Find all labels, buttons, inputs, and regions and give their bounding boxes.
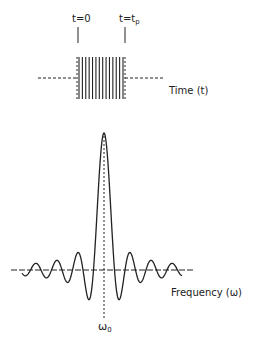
start-marker-label: t=0: [72, 13, 91, 24]
time-axis-label: Time (t): [168, 85, 208, 96]
frequency-axis-label: Frequency (ω): [171, 287, 242, 298]
time-domain-plot: t=0 t=tp Time (t): [38, 13, 208, 99]
frequency-domain-plot: Frequency (ω) ω0: [11, 133, 242, 334]
end-marker-label: t=tp: [119, 13, 140, 26]
sinc-spectrum-curve: [22, 133, 182, 300]
diagram-canvas: t=0 t=tp Time (t) Frequency (ω) ω0: [0, 0, 267, 346]
pulse-oscillation-lines: [79, 57, 123, 99]
center-frequency-label: ω0: [98, 320, 112, 334]
